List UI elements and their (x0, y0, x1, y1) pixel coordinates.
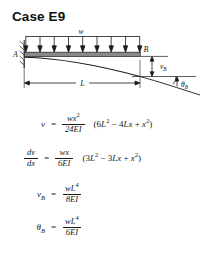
node-label-b: B (144, 45, 149, 54)
equation-row-deflection: v = wx2 24EI (6L2 − 4Lx + x2) (28, 114, 152, 134)
load-arrow (66, 37, 70, 53)
eq2-lhs-fraction: dv dx (24, 148, 38, 168)
eq3-denominator: 8EI (63, 194, 81, 205)
eq2-fraction: wx 6EI (55, 148, 73, 168)
eq4-lhs: θB (28, 222, 45, 232)
equation-row-max-deflection: vB = wL4 8EI (28, 184, 82, 204)
eq1-lhs: v (28, 119, 45, 129)
load-arrow (123, 37, 127, 53)
load-arrow (138, 37, 142, 53)
eq1-denominator: 24EI (62, 124, 85, 135)
eq3-fraction: wL4 8EI (62, 184, 82, 204)
eq2-equals: = (38, 153, 55, 163)
equation-list: v = wx2 24EI (6L2 − 4Lx + x2) dv dx = wx… (0, 106, 214, 256)
eq4-fraction: wL4 6EI (62, 217, 82, 237)
eq3-equals: = (45, 189, 62, 199)
load-arrow (38, 37, 42, 53)
load-arrow (109, 37, 113, 53)
load-arrow (81, 37, 85, 53)
eq3-numerator: wL4 (62, 184, 82, 194)
load-arrow (52, 37, 56, 53)
vb-label: vB (160, 62, 167, 72)
eq2-lhs-numerator: dv (24, 148, 38, 158)
deflection-curve (25, 57, 140, 76)
eq4-numerator: wL4 (62, 217, 82, 227)
vb-dimension (150, 57, 154, 77)
beam-member (24, 52, 140, 56)
page-title: Case E9 (12, 9, 65, 24)
equation-row-slope: dv dx = wx 6EI (3L2 − 3Lx + x2) (24, 148, 141, 168)
eq1-numerator: wx2 (64, 114, 83, 124)
support-label-a: A (12, 50, 18, 59)
eq1-equals: = (45, 119, 62, 129)
eq2-tail: (3L2 − 3Lx + x2) (73, 153, 141, 163)
fixed-support-hatching (20, 41, 25, 65)
span-label-l: L (79, 79, 85, 88)
eq2-denominator: 6EI (55, 158, 73, 169)
eq2-numerator: wx (57, 148, 72, 158)
eq4-denominator: 6EI (63, 227, 81, 238)
load-arrow (95, 37, 99, 53)
eq2-lhs-denominator: dx (24, 158, 38, 169)
figure-card: Case E9 (0, 0, 214, 256)
eq3-lhs: vB (28, 189, 45, 199)
deflection-tangent-extension (140, 77, 200, 96)
beam-diagram-svg: w A B (0, 24, 214, 108)
eq4-equals: = (45, 222, 62, 232)
eq1-tail: (6L2 − 4Lx + x2) (85, 119, 153, 129)
eq1-fraction: wx2 24EI (62, 114, 85, 134)
equation-row-end-slope: θB = wL4 6EI (28, 217, 82, 237)
load-label-w: w (78, 27, 83, 36)
cantilever-beam-diagram: w A B (0, 24, 214, 108)
distributed-load-arrows (24, 37, 142, 53)
thetab-label: θB (181, 80, 189, 90)
